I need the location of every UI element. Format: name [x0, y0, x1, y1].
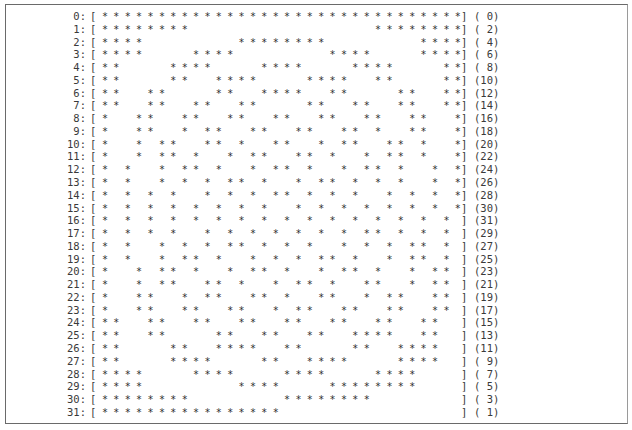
asterisk-cell: * [181, 74, 189, 87]
asterisk-cell: * [431, 36, 439, 49]
asterisk-cell: * [158, 163, 166, 176]
left-bracket: [ [90, 99, 96, 112]
asterisk-cell: * [192, 112, 200, 125]
right-bracket: ] [461, 304, 467, 317]
asterisk-cell: * [112, 48, 120, 61]
asterisk-cell: * [112, 36, 120, 49]
row-count: (23) [474, 265, 499, 278]
asterisk-cell: * [272, 189, 280, 202]
asterisk-cell: * [101, 240, 109, 253]
asterisk-cell: * [408, 355, 416, 368]
row-count: (10) [474, 74, 499, 87]
asterisk-cell: * [420, 227, 428, 240]
asterisk-cell: * [203, 406, 211, 419]
asterisk-cell: * [249, 150, 257, 163]
asterisk-cell: * [340, 304, 348, 317]
row-label: 19: [40, 253, 86, 266]
asterisk-cell: * [294, 316, 302, 329]
asterisk-cell: * [181, 253, 189, 266]
asterisk-cell: * [442, 87, 450, 100]
asterisk-cell: * [363, 163, 371, 176]
asterisk-cell: * [386, 240, 394, 253]
asterisk-cell: * [442, 265, 450, 278]
asterisk-cell: * [306, 99, 314, 112]
asterisk-cell: * [306, 304, 314, 317]
left-bracket: [ [90, 304, 96, 317]
asterisk-cell: * [294, 36, 302, 49]
right-bracket: ] [461, 253, 467, 266]
asterisk-cell: * [101, 99, 109, 112]
row-label: 7: [40, 99, 86, 112]
asterisk-cell: * [431, 23, 439, 36]
asterisk-cell: * [192, 253, 200, 266]
asterisk-cell: * [112, 87, 120, 100]
pattern-row: 22:[****************](19) [0, 291, 632, 304]
asterisk-cell: * [283, 36, 291, 49]
asterisk-cell: * [181, 240, 189, 253]
asterisk-cell: * [386, 189, 394, 202]
row-count: (26) [474, 176, 499, 189]
row-label: 8: [40, 112, 86, 125]
asterisk-cell: * [363, 10, 371, 23]
asterisk-cell: * [272, 163, 280, 176]
asterisk-cell: * [363, 61, 371, 74]
asterisk-cell: * [158, 278, 166, 291]
asterisk-cell: * [101, 393, 109, 406]
asterisk-cell: * [420, 355, 428, 368]
asterisk-cell: * [329, 74, 337, 87]
asterisk-cell: * [340, 87, 348, 100]
asterisk-cell: * [203, 138, 211, 151]
asterisk-cell: * [112, 368, 120, 381]
asterisk-cell: * [329, 291, 337, 304]
asterisk-cell: * [340, 316, 348, 329]
left-bracket: [ [90, 202, 96, 215]
asterisk-cell: * [147, 227, 155, 240]
pattern-row: 23:[****************](17) [0, 304, 632, 317]
asterisk-cell: * [260, 291, 268, 304]
asterisk-cell: * [374, 61, 382, 74]
asterisk-cell: * [260, 176, 268, 189]
asterisk-cell: * [294, 150, 302, 163]
asterisk-cell: * [158, 406, 166, 419]
asterisk-cell: * [386, 61, 394, 74]
asterisk-cell: * [363, 240, 371, 253]
asterisk-cell: * [135, 138, 143, 151]
right-bracket: ] [461, 176, 467, 189]
asterisk-cell: * [306, 355, 314, 368]
right-bracket: ] [461, 125, 467, 138]
asterisk-cell: * [192, 214, 200, 227]
asterisk-cell: * [397, 87, 405, 100]
asterisk-cell: * [181, 342, 189, 355]
asterisk-cell: * [249, 36, 257, 49]
left-bracket: [ [90, 406, 96, 419]
asterisk-cell: * [226, 368, 234, 381]
asterisk-cell: * [340, 125, 348, 138]
asterisk-cell: * [283, 10, 291, 23]
left-bracket: [ [90, 240, 96, 253]
asterisk-cell: * [124, 36, 132, 49]
asterisk-cell: * [203, 61, 211, 74]
asterisk-cell: * [169, 74, 177, 87]
asterisk-cell: * [226, 265, 234, 278]
asterisk-cell: * [260, 265, 268, 278]
left-bracket: [ [90, 368, 96, 381]
asterisk-cell: * [215, 342, 223, 355]
asterisk-cell: * [101, 265, 109, 278]
asterisk-cell: * [317, 138, 325, 151]
asterisk-cell: * [363, 342, 371, 355]
row-label: 14: [40, 189, 86, 202]
asterisk-cell: * [431, 278, 439, 291]
pattern-row: 0:[********************************]( 0) [0, 10, 632, 23]
asterisk-cell: * [226, 240, 234, 253]
asterisk-cell: * [192, 368, 200, 381]
asterisk-cell: * [317, 10, 325, 23]
left-bracket: [ [90, 36, 96, 49]
pattern-row: 18:[****************](27) [0, 240, 632, 253]
asterisk-cell: * [249, 125, 257, 138]
right-bracket: ] [461, 342, 467, 355]
asterisk-cell: * [215, 253, 223, 266]
asterisk-cell: * [351, 265, 359, 278]
asterisk-cell: * [374, 163, 382, 176]
asterisk-cell: * [158, 316, 166, 329]
asterisk-cell: * [306, 329, 314, 342]
